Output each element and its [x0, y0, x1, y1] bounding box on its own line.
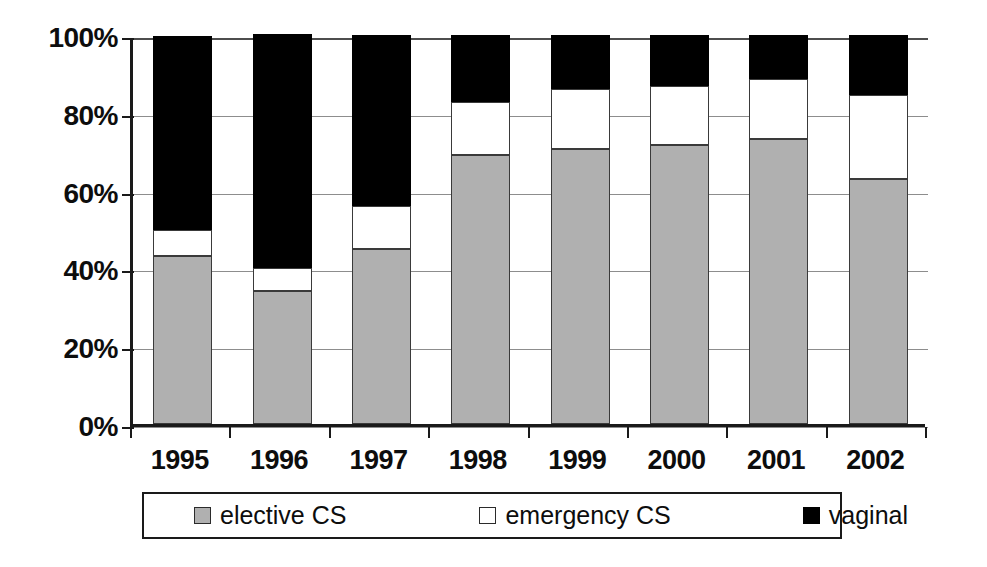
- x-axis-label-2000: 2000: [627, 447, 726, 474]
- bar-group-1996[interactable]: [253, 35, 312, 424]
- bar-segment-emergency-cs-2001[interactable]: [749, 79, 808, 139]
- legend-label: emergency CS: [505, 503, 670, 528]
- bar-group-2000[interactable]: [650, 35, 709, 424]
- x-axis-tick-mark: [826, 427, 828, 438]
- bar-group-2001[interactable]: [749, 35, 808, 424]
- y-axis-tick-mark: [122, 116, 134, 118]
- x-axis-tick-mark: [925, 427, 927, 438]
- bar-group-1999[interactable]: [551, 35, 610, 424]
- bar-segment-vaginal-1998[interactable]: [451, 35, 510, 102]
- bar-segment-emergency-cs-2000[interactable]: [650, 86, 709, 145]
- y-axis-tick-mark: [122, 194, 134, 196]
- bar-segment-elective-cs-1996[interactable]: [253, 291, 312, 424]
- bar-segment-elective-cs-2002[interactable]: [849, 179, 908, 424]
- bar-segment-elective-cs-1995[interactable]: [153, 256, 212, 424]
- legend-label: elective CS: [220, 503, 346, 528]
- bar-group-1998[interactable]: [451, 35, 510, 424]
- y-axis-tick-label: 0%: [0, 413, 118, 441]
- y-axis-tick-mark: [122, 271, 134, 273]
- x-axis-label-1999: 1999: [528, 447, 627, 474]
- x-axis-label-1997: 1997: [329, 447, 428, 474]
- legend-item-elective-cs[interactable]: elective CS: [194, 494, 346, 537]
- y-axis-tick-mark: [122, 427, 134, 429]
- bar-segment-vaginal-1997[interactable]: [352, 35, 411, 206]
- x-axis-label-1996: 1996: [229, 447, 328, 474]
- y-axis-tick-mark: [122, 38, 134, 40]
- y-axis-tick-mark: [122, 349, 134, 351]
- bar-segment-emergency-cs-1996[interactable]: [253, 268, 312, 291]
- x-axis-tick-mark: [726, 427, 728, 438]
- y-axis-tick-label: 80%: [0, 102, 118, 130]
- x-axis-label-1995: 1995: [130, 447, 229, 474]
- x-axis-tick-mark: [329, 427, 331, 438]
- y-axis-tick-label: 60%: [0, 180, 118, 208]
- x-axis-label-2001: 2001: [726, 447, 825, 474]
- plot-area: [130, 38, 925, 427]
- bar-segment-vaginal-2001[interactable]: [749, 35, 808, 79]
- bar-segment-emergency-cs-1999[interactable]: [551, 89, 610, 149]
- legend-label: vaginal: [829, 503, 908, 528]
- bar-segment-vaginal-1996[interactable]: [253, 34, 312, 268]
- x-axis-tick-mark: [428, 427, 430, 438]
- x-axis-tick-mark: [130, 427, 132, 438]
- bar-group-2002[interactable]: [849, 35, 908, 424]
- y-axis-tick-label: 100%: [0, 24, 118, 52]
- bar-segment-elective-cs-1997[interactable]: [352, 249, 411, 424]
- y-axis-tick-label: 40%: [0, 257, 118, 285]
- chart-legend: elective CSemergency CSvaginal: [142, 492, 842, 539]
- bar-segment-vaginal-1999[interactable]: [551, 35, 610, 89]
- black-square-icon: [803, 507, 820, 524]
- x-axis-label-2002: 2002: [826, 447, 925, 474]
- bar-segment-emergency-cs-1997[interactable]: [352, 206, 411, 249]
- bar-segment-emergency-cs-2002[interactable]: [849, 95, 908, 179]
- gray-square-icon: [194, 507, 211, 524]
- bar-segment-elective-cs-1999[interactable]: [551, 149, 610, 424]
- legend-item-vaginal[interactable]: vaginal: [803, 494, 908, 537]
- x-axis-tick-mark: [627, 427, 629, 438]
- bar-segment-vaginal-2000[interactable]: [650, 35, 709, 86]
- bar-group-1995[interactable]: [153, 35, 212, 424]
- bar-segment-vaginal-1995[interactable]: [153, 36, 212, 230]
- x-axis-label-1998: 1998: [428, 447, 527, 474]
- bar-segment-elective-cs-2001[interactable]: [749, 139, 808, 424]
- bar-group-1997[interactable]: [352, 35, 411, 424]
- gridline: [133, 427, 928, 428]
- bar-segment-emergency-cs-1995[interactable]: [153, 230, 212, 256]
- y-axis-tick-label: 20%: [0, 335, 118, 363]
- chart-page: 100%80%60%40%20%0% 199519961997199819992…: [0, 0, 987, 567]
- x-axis-tick-mark: [528, 427, 530, 438]
- bar-segment-emergency-cs-1998[interactable]: [451, 102, 510, 155]
- bar-segment-elective-cs-2000[interactable]: [650, 145, 709, 424]
- white-square-icon: [479, 507, 496, 524]
- legend-item-emergency-cs[interactable]: emergency CS: [479, 494, 670, 537]
- bar-segment-vaginal-2002[interactable]: [849, 35, 908, 95]
- bar-segment-elective-cs-1998[interactable]: [451, 155, 510, 424]
- x-axis-tick-mark: [229, 427, 231, 438]
